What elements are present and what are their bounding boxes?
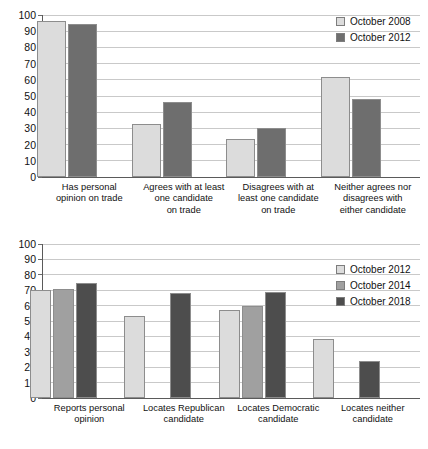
bar (170, 293, 191, 398)
legend-swatch-icon (336, 265, 345, 274)
legend-swatch-icon (336, 17, 345, 26)
gridline (42, 244, 420, 245)
bar (242, 306, 263, 398)
y-axis-tick-label: 90 (8, 254, 36, 264)
trade-opinion-chart: 0102030405060708090100Has personalopinio… (0, 0, 428, 228)
x-axis-category-label: Locates neithercandidate (314, 403, 428, 426)
legend-item: October 2014 (336, 278, 411, 292)
bar (219, 310, 240, 398)
y-axis-tick-label: 100 (8, 10, 36, 20)
y-axis-tick-label: 50 (8, 91, 36, 101)
bar (359, 361, 380, 398)
bar (124, 316, 145, 398)
bar (321, 77, 350, 177)
y-axis-tick-label: 0 (8, 172, 36, 182)
bar (76, 283, 97, 399)
legend-label: October 2012 (350, 264, 411, 275)
y-axis-tick-label: 10 (8, 156, 36, 166)
y-axis-tick-label: 20 (8, 140, 36, 150)
x-axis-category-label: Neither agrees nordisagrees witheither c… (314, 182, 428, 216)
y-axis-tick-label: 70 (8, 59, 36, 69)
legend-item: October 2012 (336, 30, 411, 44)
bar (68, 24, 97, 177)
bar (30, 290, 51, 398)
y-axis-tick-label: 40 (8, 107, 36, 117)
legend-item: October 2018 (336, 294, 411, 308)
legend-label: October 2012 (350, 32, 411, 43)
bar (265, 292, 286, 398)
y-axis-tick-label: 30 (8, 123, 36, 133)
candidate-location-chart: 0102030405060708090100Reports personalop… (0, 228, 428, 449)
bar (37, 21, 66, 177)
y-axis-tick-label: 80 (8, 270, 36, 280)
trade-opinion-legend: October 2008October 2012 (336, 14, 411, 46)
candidate-location-legend: October 2012October 2014October 2018 (336, 262, 411, 310)
y-axis-tick-label: 90 (8, 26, 36, 36)
gridline (42, 79, 420, 80)
legend-label: October 2008 (350, 16, 411, 27)
legend-label: October 2018 (350, 296, 411, 307)
legend-swatch-icon (336, 281, 345, 290)
gridline (42, 259, 420, 260)
figure-page: 0102030405060708090100Has personalopinio… (0, 0, 428, 449)
y-axis-tick-label: 60 (8, 75, 36, 85)
y-axis-tick-label: 100 (8, 239, 36, 249)
bar (163, 102, 192, 177)
bar (352, 99, 381, 177)
legend-item: October 2012 (336, 262, 411, 276)
gridline (42, 63, 420, 64)
bar (226, 139, 255, 177)
bar (132, 124, 161, 177)
legend-swatch-icon (336, 33, 345, 42)
legend-label: October 2014 (350, 280, 411, 291)
bar (257, 128, 286, 177)
legend-swatch-icon (336, 297, 345, 306)
bar (53, 289, 74, 398)
legend-item: October 2008 (336, 14, 411, 28)
y-axis-tick-label: 80 (8, 42, 36, 52)
gridline (42, 96, 420, 97)
bar (313, 339, 334, 398)
gridline (42, 47, 420, 48)
